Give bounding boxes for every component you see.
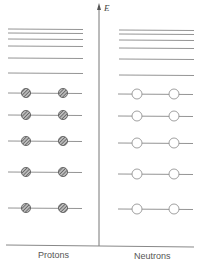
- energy-level: [118, 174, 193, 175]
- energy-level: [8, 172, 82, 173]
- energy-level: [8, 115, 82, 116]
- neutron-icon: [169, 138, 179, 148]
- energy-level: [119, 40, 194, 41]
- energy-level: [8, 33, 83, 34]
- energy-level-diagram: [0, 0, 200, 262]
- energy-level: [8, 29, 83, 30]
- arrow-up-icon: [97, 3, 101, 10]
- proton-icon: [21, 203, 30, 212]
- proton-icon: [58, 136, 67, 145]
- protons-label: Protons: [38, 250, 69, 260]
- neutron-icon: [132, 111, 142, 121]
- neutron-icon: [132, 138, 142, 148]
- proton-icon: [21, 88, 30, 97]
- proton-icon: [58, 88, 67, 97]
- energy-level: [119, 75, 194, 76]
- energy-level: [119, 48, 194, 49]
- energy-level: [8, 39, 83, 40]
- neutron-icon: [132, 169, 142, 179]
- baseline: [6, 245, 194, 247]
- energy-level: [119, 34, 194, 35]
- energy-level: [119, 59, 194, 60]
- neutrons-label: Neutrons: [134, 251, 171, 261]
- energy-level: [118, 209, 193, 210]
- neutron-icon: [169, 204, 179, 214]
- energy-level: [8, 141, 82, 142]
- energy-level: [8, 73, 83, 74]
- neutron-icon: [169, 89, 179, 99]
- energy-level: [118, 116, 193, 117]
- energy-level: [8, 93, 82, 94]
- energy-level: [8, 46, 83, 47]
- proton-icon: [58, 110, 67, 119]
- proton-icon: [58, 167, 67, 176]
- energy-level: [119, 30, 194, 31]
- proton-icon: [21, 110, 30, 119]
- proton-icon: [58, 203, 67, 212]
- neutron-icon: [169, 111, 179, 121]
- energy-level: [8, 208, 82, 209]
- proton-levels: [8, 29, 83, 213]
- proton-icon: [21, 167, 30, 176]
- energy-level: [8, 58, 83, 59]
- neutron-icon: [132, 89, 142, 99]
- energy-level: [118, 94, 193, 95]
- proton-icon: [21, 136, 30, 145]
- neutron-icon: [169, 169, 179, 179]
- energy-level: [118, 143, 193, 144]
- neutron-icon: [132, 204, 142, 214]
- neutron-levels: [118, 30, 194, 214]
- energy-axis-label: E: [104, 3, 110, 13]
